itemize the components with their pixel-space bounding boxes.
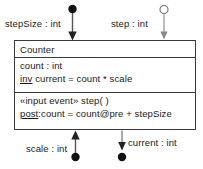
arrowhead-up-scale <box>71 131 79 140</box>
arrowhead-down-current <box>118 142 126 151</box>
port-connector-current[interactable] <box>118 131 126 162</box>
port-label-scale: scale : int <box>26 143 67 155</box>
attribute-text: count : int <box>20 60 62 71</box>
filled-circle-marker-scale <box>71 153 79 161</box>
port-label-step: step : int <box>111 18 148 30</box>
attribute-row: count : int <box>20 59 195 72</box>
attributes-compartment: count : int inv current = count * scale <box>15 58 195 93</box>
hollow-circle-marker-step <box>160 6 168 14</box>
arrowhead-down-step <box>160 32 167 40</box>
class-box-counter[interactable]: Counter count : int inv current = count … <box>14 40 196 130</box>
constraint-row: inv current = count * scale <box>20 72 195 85</box>
port-label-current: current : int <box>128 137 177 149</box>
postcondition-row: post:count = count@pre + stepSize <box>20 107 195 120</box>
operation-row: «input event» step( ) <box>20 94 195 107</box>
postcondition-text: :count = count@pre + stepSize <box>38 108 171 119</box>
constraint-text: current = count * scale <box>32 73 132 84</box>
class-name-compartment: Counter <box>15 41 195 58</box>
class-name: Counter <box>20 43 195 57</box>
port-connector-scale[interactable] <box>71 131 79 162</box>
port-connector-step[interactable] <box>160 6 168 40</box>
port-label-stepSize: stepSize : int <box>5 18 61 30</box>
operation-text: «input event» step( ) <box>20 95 109 106</box>
post-keyword: post <box>20 108 38 119</box>
filled-circle-marker-current <box>118 153 126 161</box>
inv-keyword: inv <box>20 73 32 84</box>
filled-circle-marker-stepSize <box>68 5 76 13</box>
operations-compartment: «input event» step( ) post:count = count… <box>15 93 195 129</box>
uml-class-diagram: stepSize : int step : int scale : int cu… <box>0 0 203 169</box>
port-connector-stepSize[interactable] <box>68 5 76 41</box>
